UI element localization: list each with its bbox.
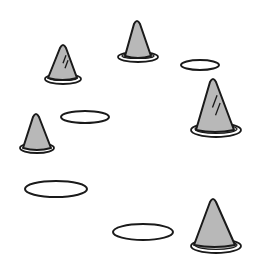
flat-ring-marker <box>25 181 87 197</box>
flat-ring-marker <box>113 224 173 240</box>
drill-layout-diagram <box>0 0 254 280</box>
flat-ring-marker <box>181 60 219 70</box>
flat-ring-marker <box>61 111 109 123</box>
